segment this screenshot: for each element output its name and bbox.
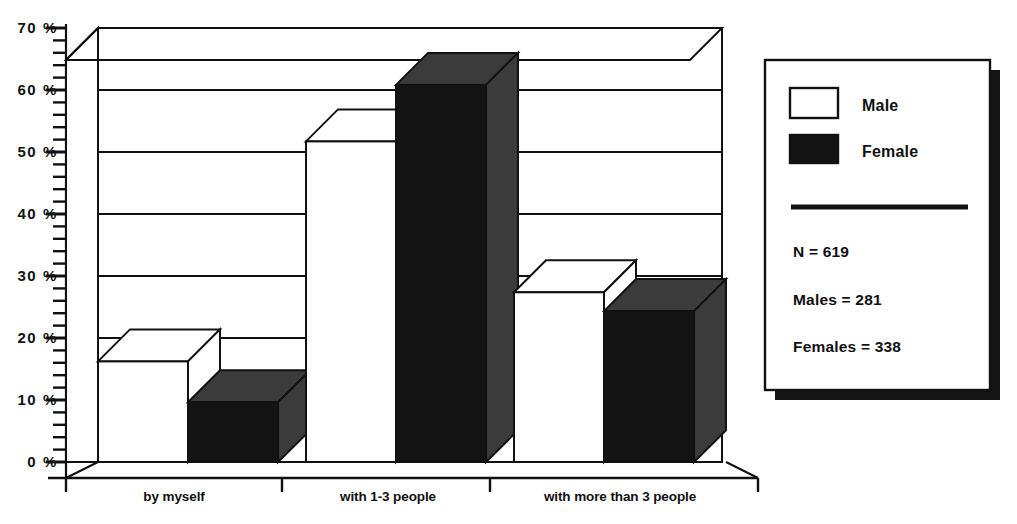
legend-panel: Male Female N = 619 Males = 281 Females …	[765, 60, 1000, 400]
x-axis-origin-depth	[66, 462, 98, 478]
bar-front-face	[188, 402, 278, 462]
x-axis	[48, 462, 758, 492]
legend-label-male: Male	[862, 97, 898, 114]
bar-group-with-more-than-3-people	[514, 260, 726, 462]
bar-front-face	[98, 361, 188, 462]
bar-front-face	[306, 141, 396, 462]
x-category-label-0: by myself	[143, 489, 205, 504]
bar-group-with-1-3-people	[306, 53, 518, 462]
x-category-label-1: with 1-3 people	[339, 489, 437, 504]
y-minor-ticks	[53, 40, 66, 449]
bar-front-face	[514, 292, 604, 462]
bar-side-face	[694, 279, 726, 462]
legend-stat-females: Females = 338	[793, 338, 901, 355]
legend-stat-males: Males = 281	[793, 291, 882, 308]
chart-figure: 0 % 10 % 20 % 30 % 40 % 50 % 60 % 70 %	[0, 0, 1017, 524]
bar-female-with-1-3-people[interactable]	[396, 53, 518, 462]
x-axis-category-labels: by myself with 1-3 people with more than…	[143, 489, 696, 504]
legend-stat-total: N = 619	[793, 243, 849, 260]
grouped-3d-bar-chart: 0 % 10 % 20 % 30 % 40 % 50 % 60 % 70 %	[0, 0, 1017, 524]
x-axis-right-depth	[726, 462, 758, 478]
bar-female-with-more-than-3-people[interactable]	[604, 279, 726, 462]
legend-swatch-male	[790, 88, 838, 118]
bar-female-by-myself[interactable]	[188, 370, 310, 462]
bar-front-face	[396, 85, 486, 462]
x-category-label-2: with more than 3 people	[543, 489, 697, 504]
legend-label-female: Female	[862, 143, 918, 160]
y-axis-tick-labels: 0 % 10 % 20 % 30 % 40 % 50 % 60 % 70 %	[17, 19, 58, 470]
legend-swatch-female	[790, 135, 838, 163]
plot-left-panel	[66, 28, 98, 462]
bar-front-face	[604, 311, 694, 462]
